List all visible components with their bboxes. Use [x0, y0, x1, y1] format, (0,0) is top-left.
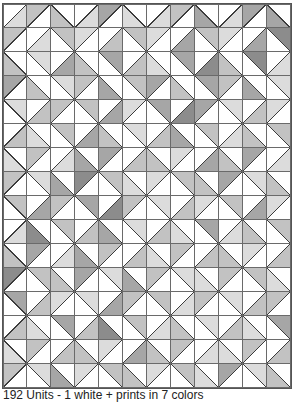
- quilt-cell: [3, 148, 27, 172]
- quilt-cell: [219, 220, 243, 244]
- quilt-cell: [51, 172, 75, 196]
- quilt-cell: [3, 76, 27, 100]
- quilt-cell: [27, 100, 51, 124]
- quilt-cell: [219, 4, 243, 28]
- quilt-cell: [195, 148, 219, 172]
- quilt-cell: [267, 76, 291, 100]
- quilt-cell: [267, 28, 291, 52]
- quilt-cell: [3, 28, 27, 52]
- quilt-cell: [267, 292, 291, 316]
- quilt-cell: [195, 28, 219, 52]
- quilt-cell: [51, 316, 75, 340]
- quilt-cell: [3, 4, 27, 28]
- quilt-cell: [123, 292, 147, 316]
- quilt-cell: [195, 244, 219, 268]
- quilt-cell: [243, 172, 267, 196]
- quilt-cell: [27, 244, 51, 268]
- quilt-cell: [195, 316, 219, 340]
- quilt-cell: [171, 364, 195, 388]
- quilt-cell: [267, 244, 291, 268]
- quilt-cell: [27, 364, 51, 388]
- quilt-cell: [171, 4, 195, 28]
- quilt-cell: [75, 340, 99, 364]
- quilt-cell: [147, 268, 171, 292]
- quilt-cell: [147, 148, 171, 172]
- quilt-cell: [51, 244, 75, 268]
- quilt-cell: [147, 52, 171, 76]
- quilt-cell: [267, 52, 291, 76]
- quilt-cell: [75, 172, 99, 196]
- quilt-cell: [27, 196, 51, 220]
- quilt-cell: [27, 220, 51, 244]
- quilt-cell: [219, 28, 243, 52]
- caption: 192 Units - 1 white + prints in 7 colors: [3, 388, 203, 402]
- quilt-cell: [243, 292, 267, 316]
- quilt-cell: [243, 124, 267, 148]
- quilt-cell: [267, 4, 291, 28]
- quilt-cell: [267, 340, 291, 364]
- quilt-cell: [123, 52, 147, 76]
- quilt-cell: [99, 4, 123, 28]
- quilt-cell: [123, 244, 147, 268]
- quilt-cell: [3, 340, 27, 364]
- quilt-cell: [51, 268, 75, 292]
- quilt-cell: [123, 148, 147, 172]
- quilt-cell: [219, 316, 243, 340]
- quilt-cell: [99, 316, 123, 340]
- quilt-cell: [3, 268, 27, 292]
- quilt-cell: [243, 76, 267, 100]
- quilt-cell: [243, 364, 267, 388]
- quilt-cell: [171, 340, 195, 364]
- quilt-cell: [195, 4, 219, 28]
- quilt-cell: [75, 244, 99, 268]
- quilt-cell: [99, 52, 123, 76]
- quilt-cell: [3, 100, 27, 124]
- quilt-cell: [51, 196, 75, 220]
- quilt-cell: [75, 292, 99, 316]
- quilt-cell: [171, 148, 195, 172]
- quilt-cell: [147, 4, 171, 28]
- quilt-cell: [75, 4, 99, 28]
- quilt-cell: [75, 196, 99, 220]
- quilt-cell: [243, 148, 267, 172]
- quilt-cell: [99, 268, 123, 292]
- quilt-cell: [147, 244, 171, 268]
- quilt-cell: [171, 100, 195, 124]
- quilt-cell: [123, 220, 147, 244]
- quilt-cell: [219, 244, 243, 268]
- quilt-cell: [123, 340, 147, 364]
- quilt-cell: [195, 124, 219, 148]
- quilt-cell: [27, 292, 51, 316]
- quilt-cell: [147, 28, 171, 52]
- quilt-cell: [243, 220, 267, 244]
- quilt-cell: [99, 28, 123, 52]
- quilt-cell: [123, 268, 147, 292]
- quilt-cell: [75, 76, 99, 100]
- quilt-cell: [147, 196, 171, 220]
- quilt-cell: [243, 4, 267, 28]
- quilt-cell: [243, 52, 267, 76]
- quilt-cell: [99, 100, 123, 124]
- quilt-cell: [195, 268, 219, 292]
- quilt-cell: [267, 100, 291, 124]
- quilt-cell: [3, 316, 27, 340]
- quilt-cell: [171, 76, 195, 100]
- quilt-cell: [51, 220, 75, 244]
- quilt-cell: [195, 220, 219, 244]
- quilt-cell: [99, 340, 123, 364]
- quilt-cell: [27, 172, 51, 196]
- quilt-cell: [75, 268, 99, 292]
- quilt-cell: [123, 76, 147, 100]
- quilt-cell: [123, 172, 147, 196]
- quilt-grid: [3, 4, 291, 388]
- quilt-cell: [243, 340, 267, 364]
- quilt-cell: [123, 196, 147, 220]
- quilt-cell: [147, 220, 171, 244]
- quilt-cell: [99, 244, 123, 268]
- quilt-cell: [243, 196, 267, 220]
- quilt-cell: [267, 364, 291, 388]
- quilt-cell: [51, 124, 75, 148]
- quilt-cell: [123, 4, 147, 28]
- quilt-cell: [27, 76, 51, 100]
- quilt-cell: [147, 292, 171, 316]
